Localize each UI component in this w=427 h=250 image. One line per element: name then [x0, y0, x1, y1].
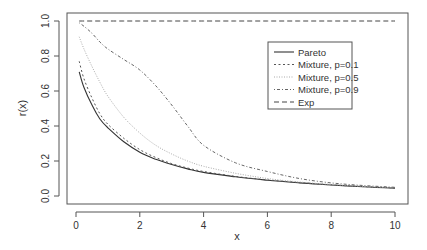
line-chart: 0246810 0.00.20.40.60.81.0 x r(x) Pareto… — [0, 0, 427, 250]
x-tick-label: 0 — [73, 220, 79, 231]
x-tick-label: 8 — [328, 220, 334, 231]
x-tick-label: 10 — [389, 220, 401, 231]
x-tick-label: 2 — [137, 220, 143, 231]
x-axis: 0246810 — [73, 212, 401, 231]
legend-label: Exp — [298, 97, 314, 108]
y-axis-label: r(x) — [16, 100, 28, 117]
y-tick-label: 0.4 — [40, 119, 51, 133]
plot-frame — [67, 13, 408, 204]
chart-container: 0246810 0.00.20.40.60.81.0 x r(x) Pareto… — [0, 0, 427, 250]
x-tick-label: 6 — [265, 220, 271, 231]
y-tick-label: 0.6 — [40, 84, 51, 98]
legend: ParetoMixture, p=0.1Mixture, p=0.5Mixtur… — [268, 42, 358, 109]
y-tick-label: 0.0 — [40, 189, 51, 203]
y-tick-label: 1.0 — [40, 14, 51, 28]
legend-label: Mixture, p=0.9 — [298, 84, 358, 95]
x-axis-label: x — [234, 230, 240, 242]
y-tick-label: 0.2 — [40, 154, 51, 168]
x-tick-label: 4 — [201, 220, 207, 231]
legend-label: Mixture, p=0.5 — [298, 72, 358, 83]
legend-label: Pareto — [298, 47, 326, 58]
legend-label: Mixture, p=0.1 — [298, 59, 358, 70]
y-tick-label: 0.8 — [40, 49, 51, 63]
y-axis: 0.00.20.40.60.81.0 — [40, 14, 59, 203]
